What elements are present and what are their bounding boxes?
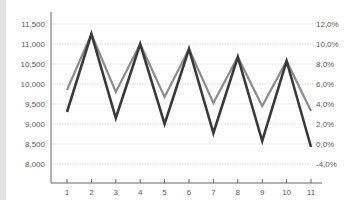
right-tick-label: 10,0% [316, 40, 339, 49]
x-tick-label: 4 [138, 188, 143, 197]
right-tick-label: 4,0% [316, 100, 334, 109]
right-tick-label: 8,0% [316, 60, 334, 69]
series-lines [67, 34, 311, 147]
left-tick-label: 11,500 [21, 20, 45, 29]
left-tick-label: 10,500 [21, 60, 46, 69]
x-tick-label: 10 [282, 188, 291, 197]
right-y-axis-labels: 12,0%10,0%8,0%6,0%4,0%2,0%0,0%-4,0% [316, 20, 339, 169]
right-tick-label: 0,0% [316, 140, 334, 149]
right-tick-label: -4,0% [316, 160, 337, 169]
left-tick-label: 9,500 [25, 100, 46, 109]
right-tick-label: 12,0% [316, 20, 339, 29]
x-axis-ticks: 1234567891011 [65, 179, 316, 197]
left-tick-label: 8,000 [25, 160, 46, 169]
x-tick-label: 6 [187, 188, 192, 197]
right-tick-label: 6,0% [316, 80, 334, 89]
left-tick-label: 11,000 [21, 40, 45, 49]
x-tick-label: 2 [89, 188, 94, 197]
left-tick-label: 9,000 [25, 120, 46, 129]
x-tick-label: 11 [307, 188, 316, 197]
left-tick-label: 10,000 [21, 80, 46, 89]
x-tick-label: 1 [65, 188, 70, 197]
x-tick-label: 5 [162, 188, 167, 197]
right-tick-label: 2,0% [316, 120, 334, 129]
series-dark-line [67, 34, 311, 147]
x-tick-label: 3 [114, 188, 119, 197]
x-tick-label: 7 [211, 188, 216, 197]
x-tick-label: 8 [236, 188, 241, 197]
x-tick-label: 9 [260, 188, 265, 197]
gridlines [52, 24, 313, 164]
line-chart: 11,50011,00010,50010,0009,5009,0008,5008… [0, 0, 353, 206]
left-y-axis-labels: 11,50011,00010,50010,0009,5009,0008,5008… [21, 20, 46, 169]
left-tick-label: 8,500 [25, 140, 46, 149]
